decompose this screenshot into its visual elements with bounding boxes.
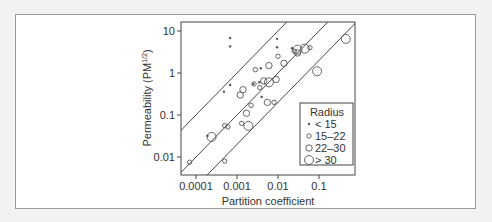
data-point <box>223 90 225 92</box>
legend: Radius < 1515–2222–30> 30 <box>300 103 353 166</box>
data-point <box>258 81 260 83</box>
data-point <box>229 37 231 39</box>
y-axis-title: Permeability (PM1/2) <box>141 49 153 146</box>
legend-label: > 30 <box>315 154 337 166</box>
scatter-chart: 0.00010.0010.010.1 0.010.1110 Partition … <box>0 0 492 222</box>
x-axis: 0.00010.0010.010.1 <box>179 175 326 192</box>
data-point <box>229 84 231 86</box>
x-tick-label: 0.001 <box>223 180 251 192</box>
y-tick-label: 0.1 <box>160 109 175 121</box>
data-point <box>229 45 231 47</box>
legend-label: 15–22 <box>315 130 346 142</box>
x-tick-label: 0.01 <box>267 180 288 192</box>
x-axis-title: Partition coefficient <box>222 195 315 207</box>
data-point <box>260 67 262 69</box>
legend-label: < 15 <box>315 118 337 130</box>
legend-title: Radius <box>310 106 345 118</box>
y-tick-label: 10 <box>163 25 175 37</box>
y-axis-title-close: ) <box>141 49 153 53</box>
x-tick-label: 0.1 <box>311 180 326 192</box>
data-point <box>276 38 278 40</box>
y-tick-label: 0.01 <box>154 151 175 163</box>
legend-marker-icon <box>308 123 310 125</box>
x-tick-label: 0.0001 <box>179 180 213 192</box>
y-axis: 0.010.1110 <box>154 25 181 163</box>
y-axis-title-main: Permeability (PM <box>141 63 153 147</box>
data-point <box>276 46 278 48</box>
y-tick-label: 1 <box>169 67 175 79</box>
legend-label: 22–30 <box>315 142 346 154</box>
data-point <box>260 96 262 98</box>
y-axis-title-exponent: 1/2 <box>141 53 148 63</box>
